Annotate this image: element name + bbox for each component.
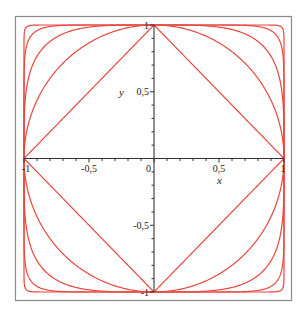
y-tick-label: 0,5	[137, 86, 150, 97]
x-tick-label: 0	[146, 163, 151, 174]
y-axis-label: y	[118, 86, 124, 98]
superellipse-plot: -1-0,500,5110,5-0,5-1 x y	[0, 0, 306, 315]
x-tick-label: 1	[281, 163, 286, 174]
x-axis-label: x	[216, 174, 222, 186]
y-tick-label: -1	[141, 287, 149, 298]
x-tick-label: 0,5	[213, 163, 226, 174]
x-tick-label: -1	[22, 163, 30, 174]
axes-group: -1-0,500,5110,5-0,5-1	[22, 20, 286, 298]
tick-marks	[24, 25, 284, 292]
y-tick-label: 1	[144, 20, 149, 31]
y-tick-label: -0,5	[133, 220, 149, 231]
x-tick-label: -0,5	[81, 163, 97, 174]
